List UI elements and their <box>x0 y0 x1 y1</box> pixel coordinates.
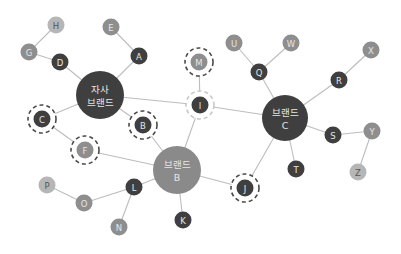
hub-own[interactable]: 자사브랜드 <box>76 71 124 119</box>
node-T[interactable]: T <box>288 161 305 178</box>
hub-brandC-line2: C <box>282 120 289 131</box>
hub-own-line1: 자사 <box>91 84 109 95</box>
node-M[interactable]: M <box>191 54 208 71</box>
node-X[interactable]: X <box>363 42 380 59</box>
node-S[interactable]: S <box>325 127 342 144</box>
hub-layer: 자사브랜드브랜드B브랜드C <box>76 71 308 194</box>
node-Y[interactable]: Y <box>364 123 381 140</box>
node-X-label: X <box>368 46 374 56</box>
node-L-label: L <box>132 183 137 193</box>
node-J[interactable]: J <box>237 180 254 197</box>
node-D[interactable]: D <box>52 54 69 71</box>
node-F-label: F <box>83 146 88 156</box>
node-C-label: C <box>39 115 45 125</box>
hub-own-line2: 브랜드 <box>87 97 114 108</box>
node-I-label: I <box>199 101 202 111</box>
node-U-label: U <box>231 39 237 49</box>
node-E[interactable]: E <box>103 19 120 36</box>
node-A[interactable]: A <box>131 48 148 65</box>
node-U[interactable]: U <box>226 35 243 52</box>
node-N-label: N <box>116 223 122 233</box>
hub-brandC-circle <box>262 95 308 141</box>
node-Z-label: Z <box>355 168 361 178</box>
node-Y-label: Y <box>368 127 375 137</box>
node-L[interactable]: L <box>126 179 143 196</box>
node-P[interactable]: P <box>39 177 56 194</box>
node-A-label: A <box>136 52 142 62</box>
hub-brandC[interactable]: 브랜드C <box>262 95 308 141</box>
node-E-label: E <box>108 23 113 33</box>
node-B[interactable]: B <box>135 117 152 134</box>
node-O-label: O <box>81 199 88 209</box>
network-diagram: ABCDEFGHIJKLMNOPQRSTUWXYZ 자사브랜드브랜드B브랜드C <box>0 0 401 254</box>
node-H-label: H <box>53 21 59 31</box>
node-F[interactable]: F <box>77 142 94 159</box>
node-W-label: W <box>287 39 296 49</box>
node-Q-label: Q <box>256 68 263 78</box>
node-Z[interactable]: Z <box>350 164 367 181</box>
node-G[interactable]: G <box>21 44 38 61</box>
node-M-label: M <box>195 58 202 68</box>
hub-own-circle <box>76 71 124 119</box>
node-K[interactable]: K <box>175 212 192 229</box>
hub-brandB-line2: B <box>174 172 181 183</box>
node-N[interactable]: N <box>111 219 128 236</box>
node-W[interactable]: W <box>283 35 300 52</box>
node-J-label: J <box>243 184 247 194</box>
node-G-label: G <box>26 48 33 58</box>
node-S-label: S <box>330 131 335 141</box>
hub-brandB-circle <box>153 146 201 194</box>
node-B-label: B <box>140 121 146 131</box>
node-R-label: R <box>336 76 342 86</box>
node-O[interactable]: O <box>76 195 93 212</box>
node-T-label: T <box>292 165 299 175</box>
node-R[interactable]: R <box>331 72 348 89</box>
node-C[interactable]: C <box>34 111 51 128</box>
node-I[interactable]: I <box>192 97 209 114</box>
hub-brandB[interactable]: 브랜드B <box>153 146 201 194</box>
node-H[interactable]: H <box>48 17 65 34</box>
hub-brandB-line1: 브랜드 <box>164 159 191 170</box>
node-Q[interactable]: Q <box>251 64 268 81</box>
node-P-label: P <box>44 181 49 191</box>
hub-brandC-line1: 브랜드 <box>272 107 299 118</box>
node-D-label: D <box>57 58 64 68</box>
node-K-label: K <box>180 216 186 226</box>
